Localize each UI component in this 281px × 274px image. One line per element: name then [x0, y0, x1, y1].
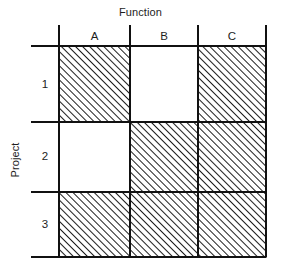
matrix-cell-1a [59, 46, 130, 122]
matrix-grid [0, 0, 281, 274]
matrix-cell-1b [130, 46, 198, 122]
matrix-cell-3c [198, 192, 266, 257]
cells-layer [59, 46, 266, 257]
matrix-cell-3b [130, 192, 198, 257]
matrix-cell-2a [59, 122, 130, 192]
matrix-cell-1c [198, 46, 266, 122]
project-function-matrix: Function Project A B C 1 2 3 [0, 0, 281, 274]
matrix-cell-2b [130, 122, 198, 192]
matrix-cell-2c [198, 122, 266, 192]
matrix-cell-3a [59, 192, 130, 257]
